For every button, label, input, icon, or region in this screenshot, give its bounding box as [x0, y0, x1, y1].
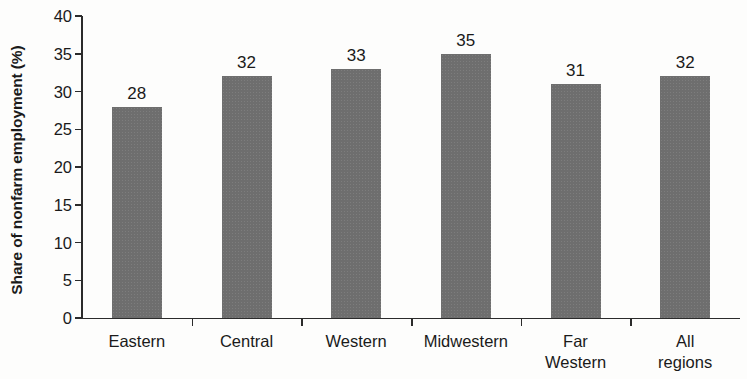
- y-axis-tick-mark: [75, 242, 82, 244]
- y-axis-tick-mark: [75, 280, 82, 282]
- bar-value-label: 35: [456, 32, 475, 49]
- y-axis-tick-mark: [75, 91, 82, 93]
- y-axis-tick-mark: [75, 317, 82, 319]
- x-axis-category-label: Eastern: [108, 331, 165, 352]
- y-axis-tick-label: 40: [44, 8, 72, 25]
- y-axis-tick-label: 15: [44, 197, 72, 214]
- y-axis-title: Share of nonfarm employment (%): [0, 0, 34, 340]
- y-axis-tick-label: 10: [44, 234, 72, 251]
- x-axis-category-label: Far Western: [545, 331, 606, 373]
- bar-value-label: 32: [237, 54, 256, 71]
- bar-value-label: 33: [347, 47, 366, 64]
- x-axis-category-label: Western: [326, 331, 387, 352]
- y-axis-tick-label: 35: [44, 46, 72, 63]
- bar-chart: Share of nonfarm employment (%) 05101520…: [0, 0, 747, 379]
- y-axis-tick-label: 25: [44, 121, 72, 138]
- y-axis-tick-label: 5: [44, 272, 72, 289]
- bar: [441, 54, 491, 318]
- bar: [551, 84, 601, 318]
- x-axis-category-label: Central: [220, 331, 273, 352]
- x-axis-tick-mark: [192, 318, 194, 326]
- bar: [112, 107, 162, 318]
- bar-value-label: 32: [676, 54, 695, 71]
- plot-area: [82, 16, 740, 318]
- y-axis-tick-mark: [75, 204, 82, 206]
- x-axis-tick-mark: [411, 318, 413, 326]
- y-axis-tick-label: 0: [44, 310, 72, 327]
- bar: [331, 69, 381, 318]
- y-axis-tick-label: 30: [44, 83, 72, 100]
- y-axis-tick-mark: [75, 15, 82, 17]
- x-axis-tick-mark: [630, 318, 632, 326]
- y-axis-tick-mark: [75, 53, 82, 55]
- bar: [660, 76, 710, 318]
- x-axis-category-label: All regions: [654, 331, 716, 373]
- y-axis-tick-label: 20: [44, 159, 72, 176]
- bar-value-label: 28: [127, 85, 146, 102]
- y-axis-title-text: Share of nonfarm employment (%): [8, 45, 26, 294]
- y-axis-tick-labels: 0510152025303540: [40, 0, 72, 379]
- y-axis-tick-mark: [75, 129, 82, 131]
- x-axis-tick-mark: [301, 318, 303, 326]
- bar: [222, 76, 272, 318]
- x-axis-category-label: Midwestern: [424, 331, 508, 352]
- x-axis-tick-mark: [521, 318, 523, 326]
- y-axis-tick-mark: [75, 166, 82, 168]
- bar-value-label: 31: [566, 62, 585, 79]
